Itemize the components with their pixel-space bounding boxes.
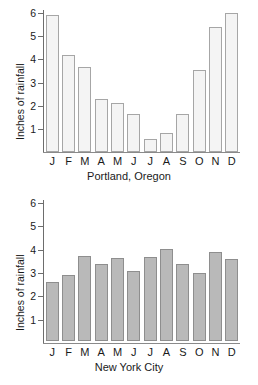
bar-portland-1 — [62, 55, 75, 152]
bar-nyc-11 — [225, 259, 238, 341]
x-label-nyc-5: J — [127, 345, 141, 359]
x-label-portland-3: A — [94, 154, 108, 168]
x-axis-line-portland — [43, 152, 240, 153]
bar-nyc-10 — [209, 252, 222, 341]
y-tick-label-portland-6: 6 — [22, 8, 36, 18]
y-tick-label-portland-3: 3 — [22, 78, 36, 88]
bar-portland-3 — [95, 99, 108, 152]
y-tick-nyc-5 — [38, 226, 44, 227]
y-tick-label-portland-4: 4 — [22, 54, 36, 64]
y-tick-nyc-6 — [38, 203, 44, 204]
y-tick-label-nyc-5: 5 — [22, 221, 36, 231]
y-tick-label-nyc-6: 6 — [22, 198, 36, 208]
x-label-nyc-7: A — [160, 345, 174, 359]
bar-portland-0 — [46, 15, 59, 152]
y-tick-portland-1 — [38, 129, 44, 130]
y-tick-nyc-1 — [38, 320, 44, 321]
x-axis-labels-portland: JFMAMJJASOND — [44, 154, 240, 170]
x-label-portland-0: J — [45, 154, 59, 168]
x-label-portland-2: M — [78, 154, 92, 168]
plot-area-nyc — [44, 193, 240, 343]
y-tick-label-nyc-4: 4 — [22, 245, 36, 255]
chart-portland-oregon: Inches of rainfall JFMAMJJASOND Portland… — [0, 0, 258, 192]
bar-nyc-2 — [78, 256, 91, 341]
y-tick-label-portland-1: 1 — [22, 124, 36, 134]
y-tick-nyc-4 — [38, 250, 44, 251]
bar-portland-10 — [209, 27, 222, 152]
chart-caption-nyc: New York City — [0, 361, 258, 373]
x-label-nyc-6: J — [143, 345, 157, 359]
y-axis-line-nyc — [43, 200, 44, 343]
bar-portland-7 — [160, 133, 173, 152]
x-label-nyc-4: M — [111, 345, 125, 359]
x-label-nyc-1: F — [62, 345, 76, 359]
bar-portland-11 — [225, 13, 238, 152]
y-tick-portland-6 — [38, 13, 44, 14]
y-tick-label-portland-5: 5 — [22, 31, 36, 41]
x-label-portland-9: O — [192, 154, 206, 168]
x-label-portland-8: S — [176, 154, 190, 168]
y-tick-portland-5 — [38, 36, 44, 37]
y-tick-label-portland-2: 2 — [22, 101, 36, 111]
bar-portland-9 — [193, 70, 206, 152]
bar-portland-6 — [144, 139, 157, 152]
x-label-nyc-8: S — [176, 345, 190, 359]
x-label-portland-5: J — [127, 154, 141, 168]
y-tick-nyc-2 — [38, 296, 44, 297]
bar-nyc-0 — [46, 282, 59, 342]
bar-nyc-9 — [193, 273, 206, 341]
x-label-nyc-10: N — [209, 345, 223, 359]
chart-caption-portland: Portland, Oregon — [0, 170, 258, 182]
y-tick-label-nyc-3: 3 — [22, 268, 36, 278]
x-label-nyc-9: O — [192, 345, 206, 359]
x-axis-labels-nyc: JFMAMJJASOND — [44, 345, 240, 361]
bar-nyc-1 — [62, 275, 75, 342]
y-tick-label-nyc-1: 1 — [22, 315, 36, 325]
plot-area-portland — [44, 0, 240, 152]
y-tick-portland-2 — [38, 106, 44, 107]
y-tick-nyc-3 — [38, 273, 44, 274]
x-label-portland-1: F — [62, 154, 76, 168]
y-axis-line-portland — [43, 10, 44, 152]
bar-portland-2 — [78, 67, 91, 152]
y-tick-portland-3 — [38, 83, 44, 84]
bar-nyc-6 — [144, 257, 157, 341]
x-label-portland-4: M — [111, 154, 125, 168]
chart-new-york-city: Inches of rainfall JFMAMJJASOND New York… — [0, 193, 258, 385]
bar-series-nyc — [44, 193, 240, 343]
x-label-portland-7: A — [160, 154, 174, 168]
bar-nyc-8 — [176, 264, 189, 341]
bar-portland-8 — [176, 114, 189, 152]
y-tick-label-nyc-2: 2 — [22, 291, 36, 301]
x-label-portland-10: N — [209, 154, 223, 168]
x-label-portland-6: J — [143, 154, 157, 168]
y-tick-portland-4 — [38, 59, 44, 60]
bar-portland-4 — [111, 103, 124, 152]
x-label-portland-11: D — [225, 154, 239, 168]
x-label-nyc-11: D — [225, 345, 239, 359]
x-label-nyc-3: A — [94, 345, 108, 359]
bar-series-portland — [44, 0, 240, 152]
bar-nyc-5 — [127, 271, 140, 341]
bar-nyc-7 — [160, 249, 173, 341]
bar-nyc-4 — [111, 258, 124, 341]
x-label-nyc-2: M — [78, 345, 92, 359]
bar-nyc-3 — [95, 264, 108, 341]
bar-portland-5 — [127, 114, 140, 152]
x-axis-line-nyc — [43, 343, 240, 344]
x-label-nyc-0: J — [45, 345, 59, 359]
